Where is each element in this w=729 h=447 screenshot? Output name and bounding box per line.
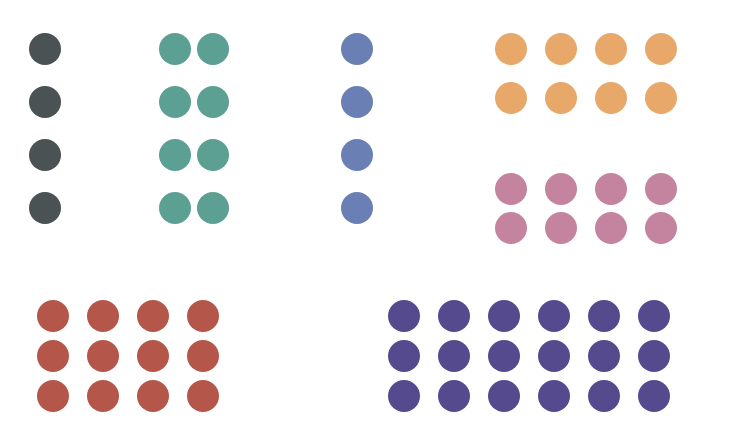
- dot-orange: [595, 33, 627, 65]
- dot-purple: [438, 380, 470, 412]
- dot-row: [495, 82, 677, 114]
- dot-orange: [595, 82, 627, 114]
- dot-teal: [197, 139, 229, 171]
- dot-brick-red: [137, 300, 169, 332]
- dot-mauve: [545, 173, 577, 205]
- dot-steel-blue: [341, 86, 373, 118]
- dot-orange: [495, 82, 527, 114]
- dot-teal: [197, 192, 229, 224]
- dot-brick-red: [187, 340, 219, 372]
- dot-purple: [488, 300, 520, 332]
- dot-purple: [538, 300, 570, 332]
- dot-steel-blue: [341, 139, 373, 171]
- dot-purple: [588, 340, 620, 372]
- brick-red-group: [37, 300, 219, 412]
- orange-group: [495, 33, 677, 114]
- dot-row: [37, 340, 219, 372]
- dot-teal: [159, 33, 191, 65]
- dot-orange: [495, 33, 527, 65]
- dot-orange: [545, 82, 577, 114]
- dot-purple: [638, 340, 670, 372]
- dot-orange: [645, 33, 677, 65]
- dot-purple: [438, 300, 470, 332]
- dot-grid-canvas: [0, 0, 729, 447]
- dot-teal: [197, 33, 229, 65]
- dot-brick-red: [87, 300, 119, 332]
- dot-row: [341, 139, 373, 171]
- dot-purple: [538, 340, 570, 372]
- dot-row: [159, 139, 229, 171]
- dot-row: [159, 192, 229, 224]
- dot-row: [159, 86, 229, 118]
- dot-brick-red: [37, 300, 69, 332]
- dot-brick-red: [187, 380, 219, 412]
- dot-row: [159, 33, 229, 65]
- dot-brick-red: [137, 380, 169, 412]
- dot-row: [495, 33, 677, 65]
- dot-row: [495, 173, 677, 205]
- dot-teal: [159, 86, 191, 118]
- dot-purple: [488, 340, 520, 372]
- dot-row: [37, 300, 219, 332]
- dot-row: [29, 192, 61, 224]
- dot-row: [29, 139, 61, 171]
- dot-mauve: [645, 173, 677, 205]
- dot-mauve: [545, 212, 577, 244]
- dot-purple: [638, 380, 670, 412]
- purple-group: [388, 300, 670, 412]
- dot-row: [388, 340, 670, 372]
- dot-orange: [545, 33, 577, 65]
- dot-brick-red: [187, 300, 219, 332]
- dark-slate-group: [29, 33, 61, 224]
- dot-dark-slate: [29, 86, 61, 118]
- dot-dark-slate: [29, 33, 61, 65]
- dot-row: [388, 300, 670, 332]
- dot-row: [29, 33, 61, 65]
- dot-brick-red: [137, 340, 169, 372]
- mauve-group: [495, 173, 677, 244]
- dot-purple: [538, 380, 570, 412]
- dot-row: [29, 86, 61, 118]
- dot-mauve: [595, 212, 627, 244]
- dot-mauve: [495, 212, 527, 244]
- dot-row: [341, 33, 373, 65]
- dot-purple: [388, 380, 420, 412]
- dot-teal: [159, 192, 191, 224]
- dot-row: [495, 212, 677, 244]
- dot-steel-blue: [341, 33, 373, 65]
- dot-dark-slate: [29, 192, 61, 224]
- dot-purple: [388, 340, 420, 372]
- dot-purple: [588, 380, 620, 412]
- dot-purple: [438, 340, 470, 372]
- dot-dark-slate: [29, 139, 61, 171]
- dot-orange: [645, 82, 677, 114]
- dot-purple: [488, 380, 520, 412]
- dot-purple: [588, 300, 620, 332]
- dot-row: [341, 192, 373, 224]
- dot-row: [388, 380, 670, 412]
- teal-group: [159, 33, 229, 224]
- dot-row: [37, 380, 219, 412]
- dot-brick-red: [87, 340, 119, 372]
- dot-brick-red: [37, 380, 69, 412]
- dot-mauve: [595, 173, 627, 205]
- dot-teal: [197, 86, 229, 118]
- dot-brick-red: [37, 340, 69, 372]
- dot-row: [341, 86, 373, 118]
- dot-purple: [388, 300, 420, 332]
- dot-purple: [638, 300, 670, 332]
- dot-mauve: [495, 173, 527, 205]
- steel-blue-group: [341, 33, 373, 224]
- dot-brick-red: [87, 380, 119, 412]
- dot-teal: [159, 139, 191, 171]
- dot-steel-blue: [341, 192, 373, 224]
- dot-mauve: [645, 212, 677, 244]
